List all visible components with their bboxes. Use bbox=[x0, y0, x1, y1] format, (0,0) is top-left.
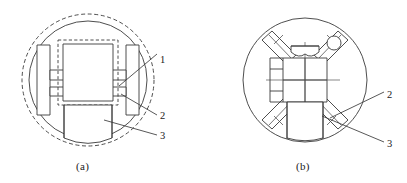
panel-b-cup-bracket bbox=[291, 46, 319, 56]
figure-svg bbox=[0, 0, 407, 183]
panel-b-lower-block bbox=[287, 102, 323, 141]
panel-a-callout-3: 3 bbox=[160, 130, 165, 141]
panel-a-caption: (a) bbox=[76, 160, 89, 172]
panel-b-caption: (b) bbox=[296, 160, 310, 172]
panel-a-right-side-plate bbox=[126, 45, 139, 115]
panel-b-circular-hole bbox=[327, 36, 341, 50]
panel-a-group bbox=[22, 14, 157, 146]
panel-a-callout-1: 1 bbox=[160, 54, 165, 65]
panel-a-lower-block bbox=[64, 105, 112, 143]
panel-b-callout-2: 2 bbox=[387, 89, 392, 100]
panel-a-callout-2: 2 bbox=[160, 110, 165, 121]
panel-b-callout-3: 3 bbox=[387, 138, 392, 149]
panel-a-center-block bbox=[63, 44, 113, 101]
figure-root: 1 2 3 2 3 (a) (b) bbox=[0, 0, 407, 183]
panel-a-left-side-plate bbox=[37, 45, 50, 115]
panel-b-group bbox=[243, 18, 384, 142]
